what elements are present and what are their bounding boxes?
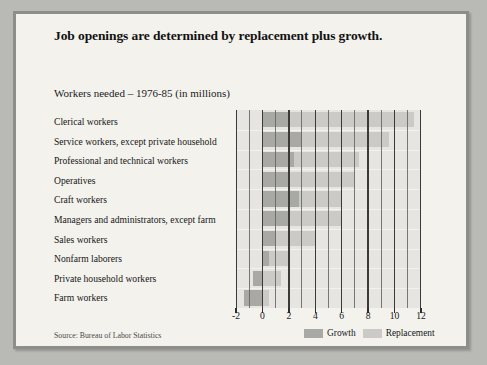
axis-tick-label: 10	[390, 310, 400, 321]
gridline	[236, 110, 237, 308]
chart-plot	[236, 110, 421, 308]
gridline	[275, 110, 276, 308]
gridline	[354, 110, 355, 308]
chart-legend: Growth Replacement	[304, 328, 435, 338]
gridline	[301, 110, 302, 308]
gridline	[262, 110, 263, 308]
category-label: Clerical workers	[54, 112, 240, 132]
gridline	[381, 110, 382, 308]
category-label: Nonfarm laborers	[54, 249, 240, 269]
gridline	[341, 110, 342, 308]
category-label: Craft workers	[54, 190, 240, 210]
axis-tick-label: 2	[286, 310, 291, 321]
gridline	[394, 110, 395, 308]
legend-label-growth: Growth	[327, 328, 356, 338]
slide-frame: Job openings are determined by replaceme…	[13, 11, 469, 349]
gridline	[315, 110, 316, 308]
slide-panel: Job openings are determined by replaceme…	[16, 14, 466, 346]
bar-segment-growth	[262, 191, 299, 206]
bar-segment-replacement	[262, 271, 281, 286]
bar-segment-replacement	[294, 152, 359, 167]
bar-segment-growth	[244, 290, 263, 305]
bar-segment-growth	[262, 251, 269, 266]
gridline	[367, 110, 368, 308]
gridline	[407, 110, 408, 308]
category-label: Sales workers	[54, 230, 240, 250]
axis-tick-label: 12	[416, 310, 426, 321]
axis-tick-label: -2	[232, 310, 240, 321]
bar-segment-replacement	[276, 231, 316, 246]
bar-segment-replacement	[299, 191, 341, 206]
axis-tick-label: 4	[313, 310, 318, 321]
legend-item-replacement: Replacement	[363, 328, 435, 338]
legend-item-growth: Growth	[304, 328, 356, 338]
bar-segment-growth	[262, 132, 302, 147]
source-note: Source: Bureau of Labor Statistics	[54, 331, 161, 340]
plot-area	[236, 110, 421, 308]
x-axis-labels: -2024681012	[236, 310, 421, 324]
category-label: Managers and administrators, except farm	[54, 210, 240, 230]
bar-segment-replacement	[289, 172, 355, 187]
bar-segment-growth	[262, 231, 275, 246]
gridline	[249, 110, 250, 308]
legend-swatch-replacement-icon	[363, 329, 382, 338]
page-title: Job openings are determined by replaceme…	[54, 28, 384, 44]
category-label: Professional and technical workers	[54, 151, 240, 171]
gridline	[288, 110, 289, 308]
bar-segment-replacement	[269, 251, 289, 266]
axis-tick-label: 6	[339, 310, 344, 321]
category-label: Operatives	[54, 171, 240, 191]
gridline	[328, 110, 329, 308]
legend-label-replacement: Replacement	[386, 328, 435, 338]
category-label: Private household workers	[54, 269, 240, 289]
category-label: Service workers, except private househol…	[54, 132, 240, 152]
bar-segment-replacement	[262, 290, 269, 305]
axis-tick-label: 0	[260, 310, 265, 321]
category-axis-labels: Clerical workersService workers, except …	[54, 112, 240, 308]
axis-tick-label: 8	[366, 310, 371, 321]
gridline	[420, 110, 421, 308]
bar-segment-replacement	[289, 112, 415, 127]
category-label: Farm workers	[54, 288, 240, 308]
legend-swatch-growth-icon	[304, 329, 323, 338]
chart-subtitle: Workers needed – 1976-85 (in millions)	[54, 87, 230, 99]
